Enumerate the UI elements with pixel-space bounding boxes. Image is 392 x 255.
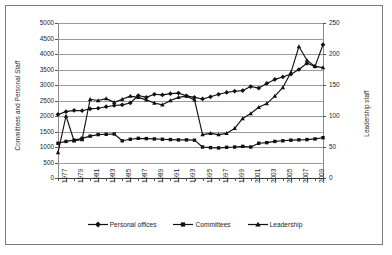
y-axis-right-tick-label: 200 xyxy=(329,50,355,57)
y-axis-left-tick-label: 2500 xyxy=(28,97,54,104)
data-point-marker xyxy=(152,92,157,97)
y-axis-left-tick-label: 4500 xyxy=(28,35,54,42)
y-axis-right-tick-label: 100 xyxy=(329,112,355,119)
data-point-marker xyxy=(216,92,221,97)
data-point-marker xyxy=(80,108,85,113)
data-point-marker xyxy=(256,86,261,91)
data-point-marker xyxy=(248,84,253,89)
y-axis-right-tickmark xyxy=(323,23,326,24)
y-axis-right-tick-label: 0 xyxy=(329,174,355,181)
triangle-marker-icon xyxy=(248,220,268,229)
data-point-marker xyxy=(193,138,196,141)
data-point-marker xyxy=(240,88,245,93)
data-point-marker xyxy=(96,106,101,111)
x-axis-tickmark xyxy=(299,178,300,181)
data-point-marker xyxy=(281,139,284,142)
data-point-marker xyxy=(56,150,60,154)
chart-frame: Committees and Personal Staff Leadership… xyxy=(5,5,383,245)
data-point-marker xyxy=(64,109,69,114)
data-point-marker xyxy=(297,138,300,141)
data-point-marker xyxy=(200,97,205,102)
y-axis-left-tick-label: 0 xyxy=(28,174,54,181)
x-axis-tickmark xyxy=(186,178,187,181)
legend-label: Personal offices xyxy=(110,221,157,228)
data-point-marker xyxy=(272,77,277,82)
y-axis-left-tick-label: 4000 xyxy=(28,50,54,57)
y-axis-left-tick-label: 3000 xyxy=(28,81,54,88)
legend-item-leadership[interactable]: Leadership xyxy=(248,220,303,229)
data-point-marker xyxy=(104,96,108,100)
data-point-marker xyxy=(145,137,148,140)
data-point-marker xyxy=(257,142,260,145)
data-point-marker xyxy=(176,91,181,96)
data-point-marker xyxy=(120,102,125,107)
data-point-marker xyxy=(64,140,67,143)
x-axis-tickmark xyxy=(315,178,316,181)
data-point-marker xyxy=(217,146,220,149)
y-axis-right-tick-label: 250 xyxy=(329,19,355,26)
data-point-marker xyxy=(160,93,165,98)
data-point-marker xyxy=(104,104,109,109)
y-axis-right-tickmark xyxy=(323,147,326,148)
data-point-marker xyxy=(233,145,236,148)
y-axis-right-tick-label: 150 xyxy=(329,81,355,88)
x-axis-tickmark xyxy=(170,178,171,181)
x-axis-tickmark xyxy=(122,178,123,181)
chart-canvas: Committees and Personal Staff Leadership… xyxy=(6,6,384,246)
data-point-marker xyxy=(265,141,268,144)
y-axis-left-tick-label: 500 xyxy=(28,159,54,166)
chart-legend: Personal officesCommitteesLeadership xyxy=(6,220,384,229)
y-axis-left-tick-label: 5000 xyxy=(28,19,54,26)
data-point-marker xyxy=(209,146,212,149)
data-point-marker xyxy=(177,138,180,141)
x-axis-tickmark xyxy=(138,178,139,181)
data-point-marker xyxy=(96,133,99,136)
x-axis-tickmark xyxy=(74,178,75,181)
series-personal-offices xyxy=(56,42,326,116)
data-point-marker xyxy=(264,81,269,86)
series-committees xyxy=(56,132,324,149)
y-axis-left-tick-label: 1500 xyxy=(28,128,54,135)
data-point-marker xyxy=(104,133,107,136)
y-axis-right-tickmark xyxy=(323,85,326,86)
data-point-marker xyxy=(168,91,173,96)
data-point-marker xyxy=(169,138,172,141)
data-point-marker xyxy=(249,145,252,148)
data-point-marker xyxy=(297,44,301,48)
data-point-marker xyxy=(88,134,91,137)
legend-item-committees[interactable]: Committees xyxy=(173,220,230,229)
y-axis-right-title: Leadership staff xyxy=(363,75,370,153)
y-axis-right-tickmark xyxy=(323,116,326,117)
data-point-marker xyxy=(208,94,213,99)
x-axis-tickmark xyxy=(267,178,268,181)
x-axis-tickmark xyxy=(106,178,107,181)
y-axis-left-tick-label: 3500 xyxy=(28,66,54,73)
data-point-marker xyxy=(161,138,164,141)
x-axis-tickmark xyxy=(203,178,204,181)
data-point-marker xyxy=(241,145,244,148)
data-point-marker xyxy=(232,89,237,94)
data-point-marker xyxy=(280,75,285,80)
data-point-marker xyxy=(64,114,68,118)
data-point-marker xyxy=(313,137,316,140)
data-point-marker xyxy=(121,139,124,142)
series-leadership xyxy=(56,44,325,154)
x-axis-tickmark xyxy=(58,178,59,181)
plot-area xyxy=(58,23,323,178)
x-axis-tickmark xyxy=(251,178,252,181)
legend-item-personal-offices[interactable]: Personal offices xyxy=(88,220,157,229)
square-marker-icon xyxy=(173,220,193,229)
x-axis-tickmark xyxy=(90,178,91,181)
x-axis-tickmark xyxy=(235,178,236,181)
legend-label: Committees xyxy=(195,221,230,228)
y-axis-left-tick-label: 2000 xyxy=(28,112,54,119)
data-point-marker xyxy=(201,145,204,148)
data-point-marker xyxy=(273,140,276,143)
x-axis-tickmark xyxy=(283,178,284,181)
diamond-marker-icon xyxy=(88,220,108,229)
series-line xyxy=(58,45,323,115)
data-point-marker xyxy=(137,137,140,140)
y-axis-right-tickmark xyxy=(323,54,326,55)
legend-label: Leadership xyxy=(270,221,303,228)
data-point-marker xyxy=(225,146,228,149)
